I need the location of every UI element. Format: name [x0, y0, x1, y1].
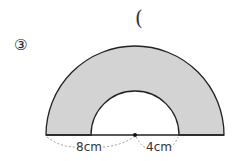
label-4cm: 4cm — [146, 140, 172, 154]
label-8cm: 8cm — [76, 140, 102, 154]
center-dot — [133, 133, 137, 137]
shaded-ring — [46, 46, 224, 135]
semicircle-ring-figure: 8cm 4cm — [0, 0, 240, 161]
